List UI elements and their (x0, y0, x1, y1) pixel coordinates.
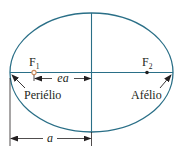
a-label: a (47, 131, 53, 145)
aphelion-pointer (160, 75, 171, 88)
ea-label: ea (57, 71, 68, 85)
focus-2-point (145, 71, 149, 75)
focus-1-point (32, 70, 36, 74)
perihelion-label: Periélio (24, 88, 61, 102)
aphelion-label: Afélio (131, 88, 162, 102)
orbit-diagram: F1 F2 ea a Periélio Afélio (0, 0, 180, 155)
focus-2-label: F2 (142, 55, 153, 71)
perihelion-pointer (12, 75, 25, 88)
focus-1-label: F1 (29, 55, 40, 71)
